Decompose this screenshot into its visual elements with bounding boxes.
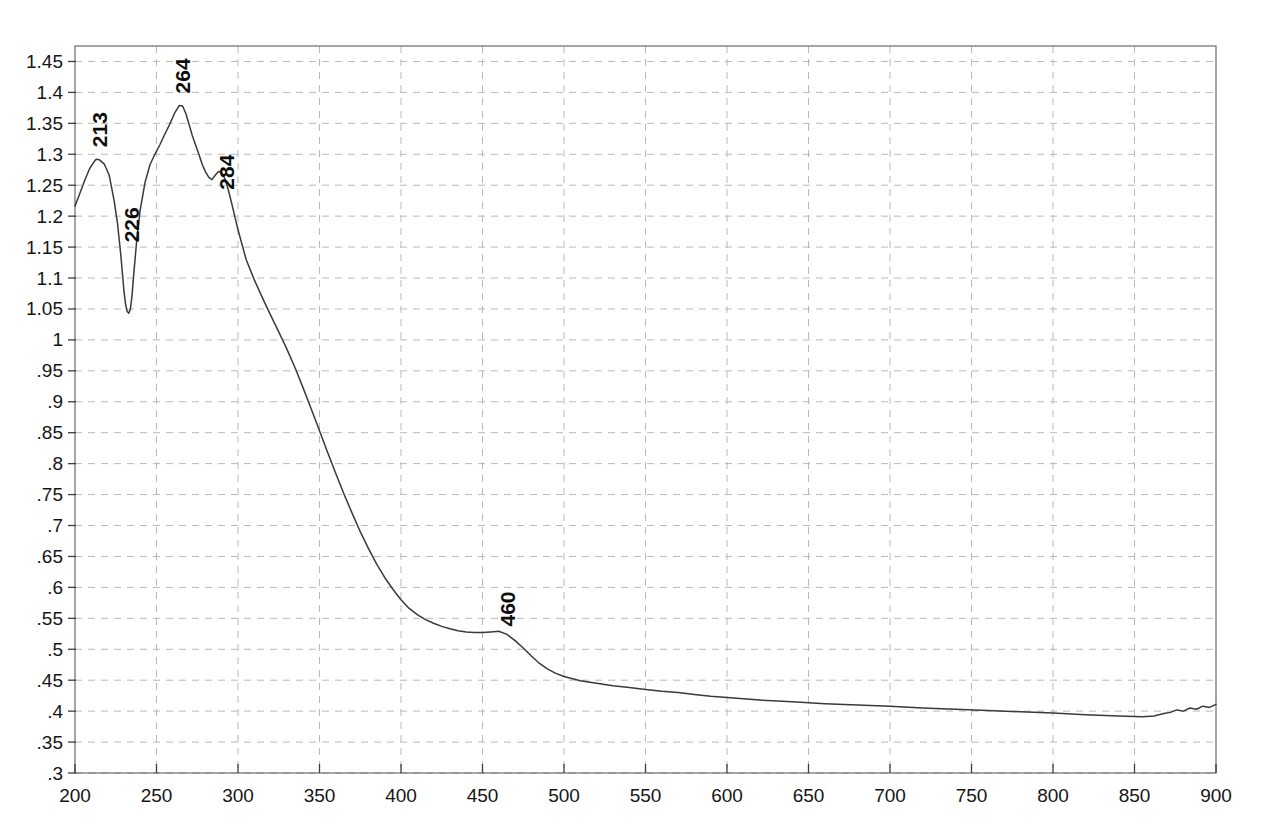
x-tick-label: 700 [874, 785, 906, 806]
y-tick-label: .95 [37, 360, 63, 381]
x-axis-ticks: 2002503003504004505005506006507007508008… [59, 764, 1232, 806]
peak-annotation-226: 226 [120, 207, 143, 242]
x-tick-label: 350 [304, 785, 336, 806]
y-tick-label: .85 [37, 422, 63, 443]
y-tick-label: 1.15 [26, 237, 63, 258]
y-tick-label: 1.3 [37, 144, 63, 165]
y-tick-label: .35 [37, 732, 63, 753]
y-tick-label: .65 [37, 546, 63, 567]
x-tick-label: 300 [222, 785, 254, 806]
y-tick-label: .45 [37, 670, 63, 691]
x-tick-label: 450 [467, 785, 499, 806]
peak-annotation-213: 213 [88, 112, 111, 147]
x-tick-label: 650 [793, 785, 825, 806]
peak-annotation-264: 264 [171, 58, 194, 93]
uv-vis-spectrum-chart: .3.35.4.45.5.55.6.65.7.75.8.85.9.9511.05… [0, 0, 1266, 840]
y-tick-label: 1.45 [26, 51, 63, 72]
x-tick-label: 550 [630, 785, 662, 806]
x-tick-label: 750 [956, 785, 988, 806]
y-tick-label: 1.35 [26, 113, 63, 134]
spectrum-plot: .3.35.4.45.5.55.6.65.7.75.8.85.9.9511.05… [0, 0, 1266, 840]
peak-annotation-284: 284 [215, 154, 238, 189]
y-tick-label: 1.4 [37, 82, 64, 103]
y-tick-label: .75 [37, 484, 63, 505]
y-tick-label: 1.2 [37, 206, 63, 227]
x-tick-label: 200 [59, 785, 91, 806]
y-tick-label: .4 [47, 701, 63, 722]
y-tick-label: .5 [47, 639, 63, 660]
grid-lines [75, 46, 1216, 773]
y-tick-label: 1.25 [26, 175, 63, 196]
y-tick-label: .8 [47, 453, 63, 474]
y-axis-ticks: .3.35.4.45.5.55.6.65.7.75.8.85.9.9511.05… [26, 51, 76, 784]
x-tick-label: 600 [711, 785, 743, 806]
x-tick-label: 800 [1037, 785, 1069, 806]
y-tick-label: .3 [47, 763, 63, 784]
x-tick-label: 400 [385, 785, 417, 806]
y-tick-label: .7 [47, 515, 63, 536]
y-tick-label: 1 [52, 329, 63, 350]
y-tick-label: 1.1 [37, 268, 63, 289]
peak-annotation-460: 460 [496, 592, 519, 627]
peak-annotations: 213226264284460 [88, 58, 519, 627]
y-tick-label: .55 [37, 608, 63, 629]
x-tick-label: 250 [141, 785, 173, 806]
y-tick-label: .9 [47, 391, 63, 412]
x-tick-label: 900 [1200, 785, 1232, 806]
y-tick-label: 1.05 [26, 298, 63, 319]
x-tick-label: 850 [1119, 785, 1151, 806]
y-tick-label: .6 [47, 577, 63, 598]
x-tick-label: 500 [548, 785, 580, 806]
